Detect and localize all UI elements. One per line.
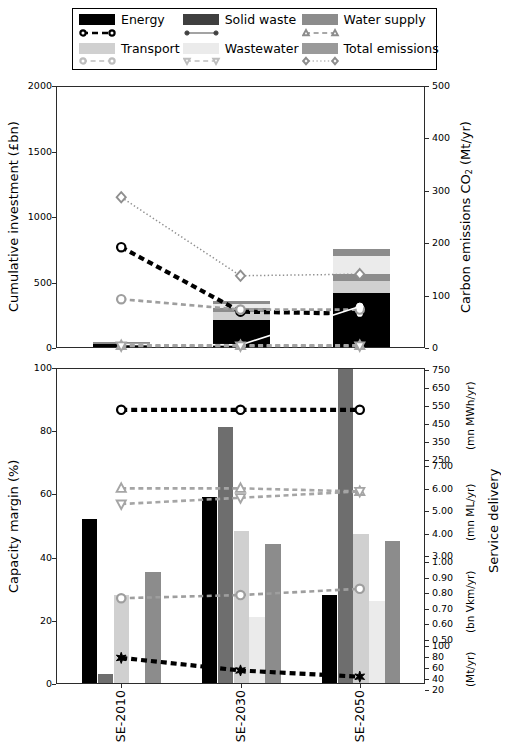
- y2-tick-mark: [425, 86, 429, 87]
- x-tick-mark: [241, 684, 242, 688]
- y2-tick-label: 650: [432, 382, 450, 393]
- x-tick-mark: [360, 684, 361, 688]
- legend-line-sample: [183, 27, 299, 38]
- bottom-chart-y2-axis-label: Service delivery: [486, 438, 501, 604]
- legend-line-sample: [302, 27, 439, 38]
- legend-item-label: Solid waste: [225, 13, 296, 26]
- y2-tick-label: 200: [432, 237, 450, 248]
- y2-tick-mark: [425, 138, 429, 139]
- y2-tick-mark: [425, 442, 429, 443]
- legend-item-label: Transport: [121, 42, 180, 55]
- legend-item-total-emissions[interactable]: Total emissions: [299, 40, 439, 69]
- y-tick-label: 1500: [26, 146, 52, 157]
- y2-tick-mark: [425, 460, 429, 461]
- y2-tick-mark: [425, 511, 429, 512]
- top-chart-y-axis-label: Cumulative investment (£bn): [6, 104, 21, 330]
- legend-line-sample: [79, 56, 180, 67]
- y2-tick-mark: [425, 609, 429, 610]
- y2-tick-mark: [425, 668, 429, 669]
- y2-tick-mark: [425, 679, 429, 680]
- y2-tick-mark: [425, 646, 429, 647]
- y2-tick-label: 4.00: [432, 528, 453, 539]
- y2-tick-mark: [425, 640, 429, 641]
- y2-unit-label: (Mt/yr): [464, 640, 476, 698]
- x-tick-label-se-2050: SE-2050: [352, 690, 367, 742]
- y2-tick-mark: [425, 534, 429, 535]
- y2-tick-mark: [425, 593, 429, 594]
- legend-line-sample: [79, 27, 180, 38]
- top-chart-lines: [57, 87, 424, 347]
- legend-item-transport[interactable]: Transport: [76, 40, 180, 69]
- legend-swatch: [79, 43, 115, 54]
- x-tick-label-se-2010: SE-2010: [113, 690, 128, 742]
- bottom-chart-plot-area: [56, 368, 425, 684]
- y2-tick-mark: [425, 243, 429, 244]
- legend-swatch: [183, 43, 219, 54]
- y-tick-label: 500: [26, 277, 52, 288]
- y2-tick-label: 20: [432, 684, 444, 695]
- legend-item-wastewater[interactable]: Wastewater: [180, 40, 299, 69]
- legend-line-sample: [302, 56, 439, 67]
- x-tick-label-se-2030: SE-2030: [233, 690, 248, 742]
- bottom-chart-lines: [57, 369, 424, 683]
- y-tick-label: 0: [26, 678, 52, 689]
- y2-tick-mark: [425, 466, 429, 467]
- y2-tick-label: 550: [432, 400, 450, 411]
- y2-tick-mark: [425, 556, 429, 557]
- legend-item-water-supply[interactable]: Water supply: [299, 11, 439, 40]
- y-tick-label: 20: [26, 615, 52, 626]
- y2-tick-mark: [425, 424, 429, 425]
- y2-tick-mark: [425, 562, 429, 563]
- y2-tick-label: 100: [432, 290, 450, 301]
- y2-tick-label: 100: [432, 640, 450, 651]
- y2-tick-mark: [425, 578, 429, 579]
- y2-tick-label: 5.00: [432, 505, 453, 516]
- y2-tick-label: 40: [432, 673, 444, 684]
- y2-tick-label: 0.70: [432, 603, 453, 614]
- y2-tick-label: 0.60: [432, 618, 453, 629]
- legend-item-label: Water supply: [344, 13, 426, 26]
- y-tick-label: 1000: [26, 211, 52, 222]
- y2-tick-label: 500: [432, 80, 450, 91]
- y2-tick-label: 0: [432, 342, 438, 353]
- bottom-chart-y-axis-label: Capacity margin (%): [6, 428, 21, 624]
- legend-item-solid-waste[interactable]: Solid waste: [180, 11, 299, 40]
- y2-tick-label: 450: [432, 418, 450, 429]
- legend-swatch: [302, 43, 338, 54]
- y2-tick-label: 1.00: [432, 556, 453, 567]
- y-tick-label: 100: [26, 362, 52, 373]
- y2-tick-mark: [425, 191, 429, 192]
- legend-swatch: [183, 14, 219, 25]
- y2-tick-label: 7.00: [432, 460, 453, 471]
- y2-tick-label: 400: [432, 132, 450, 143]
- legend-item-label: Energy: [121, 13, 165, 26]
- y2-tick-mark: [425, 690, 429, 691]
- legend-item-energy[interactable]: Energy: [76, 11, 180, 40]
- legend-swatch: [302, 14, 338, 25]
- y2-tick-label: 60: [432, 662, 444, 673]
- y-tick-label: 80: [26, 425, 52, 436]
- y2-tick-mark: [425, 296, 429, 297]
- y2-tick-mark: [425, 624, 429, 625]
- y-tick-label: 0: [26, 342, 52, 353]
- legend-line-sample: [183, 56, 299, 67]
- y-tick-label: 2000: [26, 80, 52, 91]
- y2-tick-mark: [425, 657, 429, 658]
- y2-tick-label: 300: [432, 185, 450, 196]
- y2-unit-label: (mn MWh/yr): [464, 364, 476, 468]
- y2-unit-label: (bn Vkm/yr): [464, 556, 476, 648]
- y-tick-mark: [52, 348, 56, 349]
- y2-tick-label: 80: [432, 651, 444, 662]
- y2-tick-mark: [425, 406, 429, 407]
- legend-item-label: Total emissions: [344, 42, 439, 55]
- legend-swatch: [79, 14, 115, 25]
- y2-unit-label: (mn ML/yr): [464, 460, 476, 564]
- y2-tick-mark: [425, 370, 429, 371]
- top-chart-plot-area: [56, 86, 425, 348]
- y2-tick-label: 750: [432, 364, 450, 375]
- y2-tick-label: 350: [432, 436, 450, 447]
- y2-tick-mark: [425, 388, 429, 389]
- y2-tick-label: 6.00: [432, 483, 453, 494]
- x-tick-mark: [121, 684, 122, 688]
